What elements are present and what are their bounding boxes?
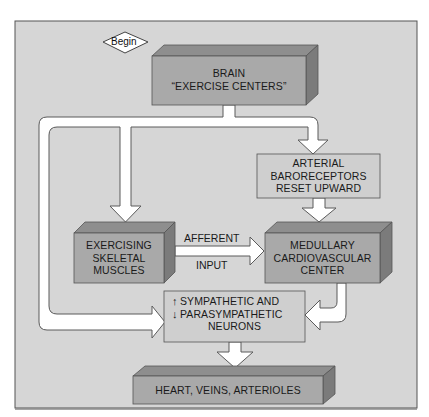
muscles-top-face: [74, 222, 175, 233]
medullary-top-face: [265, 222, 392, 233]
brain-side-face: [306, 45, 318, 105]
brain-label-line1: BRAIN: [152, 67, 306, 80]
decrease-arrow-icon: ↓: [172, 308, 180, 321]
muscles-label-line3: MUSCLES: [74, 264, 164, 277]
brain-label: BRAIN “EXERCISE CENTERS”: [152, 67, 306, 92]
baroreceptors-label-line2: BARORECEPTORS: [257, 170, 380, 183]
muscles-side-face: [164, 222, 175, 283]
effectors-top-face: [133, 366, 335, 376]
medullary-label: MEDULLARY CARDIOVASCULAR CENTER: [265, 239, 380, 277]
muscles-label-line2: SKELETAL: [74, 252, 164, 265]
increase-arrow-icon: ↑: [172, 295, 180, 308]
flowchart-canvas: [0, 0, 429, 417]
medullary-label-line3: CENTER: [265, 264, 380, 277]
muscles-label: EXERCISING SKELETAL MUSCLES: [74, 239, 164, 277]
medullary-label-line2: CARDIOVASCULAR: [265, 252, 380, 265]
baroreceptors-label: ARTERIAL BARORECEPTORS RESET UPWARD: [257, 157, 380, 195]
brain-top-face: [152, 45, 318, 56]
input-label: INPUT: [196, 259, 228, 272]
effectors-label: HEART, VEINS, ARTERIOLES: [133, 384, 323, 397]
brain-label-line2: “EXERCISE CENTERS”: [152, 80, 306, 93]
baroreceptors-label-line1: ARTERIAL: [257, 157, 380, 170]
neurons-label: ↑SYMPATHETIC AND ↓PARASYMPATHETIC NEURON…: [164, 295, 305, 333]
begin-label: Begin: [111, 36, 137, 47]
medullary-side-face: [380, 222, 392, 283]
baroreceptors-label-line3: RESET UPWARD: [257, 182, 380, 195]
neurons-label-line3: NEURONS: [164, 320, 305, 333]
medullary-label-line1: MEDULLARY: [265, 239, 380, 252]
neurons-label-line2: ↓PARASYMPATHETIC: [164, 308, 305, 321]
afferent-label: AFFERENT: [184, 232, 239, 245]
neurons-label-line1: ↑SYMPATHETIC AND: [164, 295, 305, 308]
muscles-label-line1: EXERCISING: [74, 239, 164, 252]
